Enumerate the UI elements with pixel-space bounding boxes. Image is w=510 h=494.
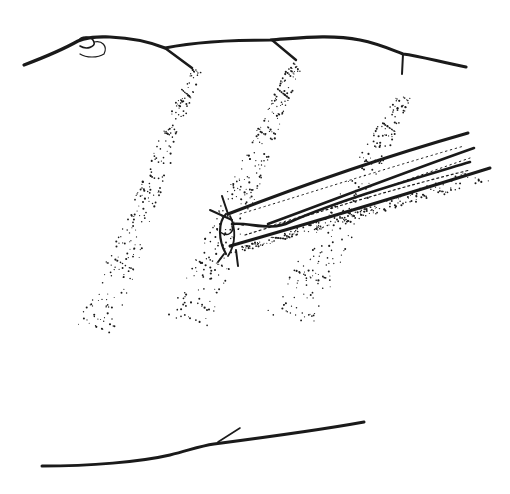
stippled-shading-right [268,96,411,321]
illustration [0,0,510,494]
lower-contour-line [42,422,364,466]
upper-contour-line [24,37,466,74]
tied-knot [210,196,238,266]
stippled-shading-left [78,69,201,333]
stippled-shading-tube [241,172,489,251]
